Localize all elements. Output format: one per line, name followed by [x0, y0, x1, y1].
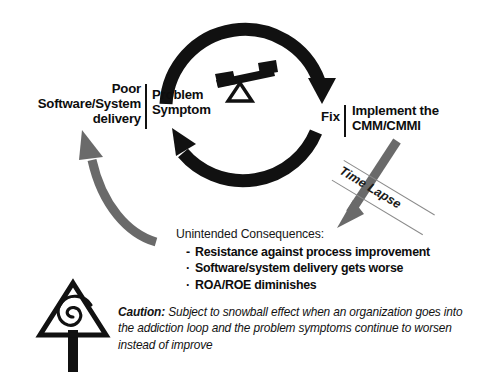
label-divider-right: [344, 105, 346, 137]
counterclockwise-arrow-icon: [172, 128, 316, 181]
list-item: · ROA/ROE diminishes: [186, 277, 476, 293]
unintended-consequences-heading: Unintended Consequences:: [176, 227, 476, 241]
list-item-text: Resistance against process improvement: [195, 245, 430, 259]
bullet-marker: ·: [186, 260, 190, 276]
list-item: - Resistance against process improvement: [186, 244, 476, 260]
bullet-marker: ·: [186, 277, 190, 293]
caution-label: Caution:: [118, 305, 165, 319]
list-item-text: ROA/ROE diminishes: [195, 278, 317, 292]
implement-cmm-cmmi-label: Implement the CMM/CMMI: [352, 104, 476, 134]
unintended-consequences-block: Unintended Consequences: - Resistance ag…: [176, 227, 476, 293]
caution-note: Caution: Subject to snowball effect when…: [118, 304, 468, 353]
list-item-text: Software/system delivery gets worse: [195, 261, 403, 275]
curved-gray-arrow-icon: [79, 130, 156, 242]
caution-text: Subject to snowball effect when an organ…: [118, 305, 462, 352]
poor-delivery-label: Poor Software/System delivery: [6, 82, 141, 127]
unintended-consequences-list: - Resistance against process improvement…: [176, 244, 476, 293]
caution-spiral-sign-icon: [40, 283, 106, 372]
list-item: · Software/system delivery gets worse: [186, 260, 476, 276]
bullet-marker: -: [186, 244, 190, 260]
label-divider-left: [145, 84, 147, 129]
problem-symptom-node-label: Problem Symptom: [152, 88, 242, 118]
fix-node-label: Fix: [296, 110, 340, 125]
diagram-canvas: Poor Software/System delivery Problem Sy…: [0, 0, 477, 376]
